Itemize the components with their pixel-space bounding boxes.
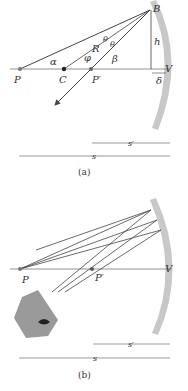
point-P (18, 67, 22, 71)
label-delta: δ (156, 75, 162, 86)
caption-b: (b) (78, 370, 91, 380)
label-s-a: s (92, 152, 96, 161)
label-phi: φ (84, 52, 91, 63)
label-V: V (165, 63, 174, 74)
observer-eye-icon (14, 290, 58, 338)
label-B: B (152, 3, 160, 14)
label-C: C (59, 74, 67, 85)
point-P-b (18, 267, 22, 271)
label-P-prime-b: P′ (94, 272, 105, 283)
point-C (62, 67, 66, 71)
label-R: R (91, 43, 100, 54)
label-V-b: V (165, 263, 174, 274)
label-beta: β (111, 53, 118, 64)
label-theta-1: θ (103, 35, 108, 44)
label-P-b: P (21, 274, 29, 285)
concave-mirror-diagram: P C P′ B V α φ β θ θ R h δ s′ s (a) (0, 0, 188, 391)
label-s-prime-a: s′ (128, 139, 134, 148)
figure-b: P P′ V s′ s (b) (10, 198, 174, 380)
figure-a: P C P′ B V α φ β θ θ R h δ s′ s (a) (10, 0, 174, 177)
ray-bundle (20, 210, 161, 292)
point-P-prime (89, 67, 93, 71)
point-P-prime-b (90, 267, 94, 271)
reflected-ray (55, 10, 150, 105)
label-s-b: s (93, 354, 97, 363)
label-theta-2: θ (110, 40, 115, 49)
label-alpha: α (50, 56, 57, 67)
caption-a: (a) (78, 167, 90, 177)
label-P-prime: P′ (91, 74, 102, 85)
label-s-prime-b: s′ (128, 340, 134, 349)
label-h: h (154, 36, 160, 47)
label-P: P (13, 74, 21, 85)
